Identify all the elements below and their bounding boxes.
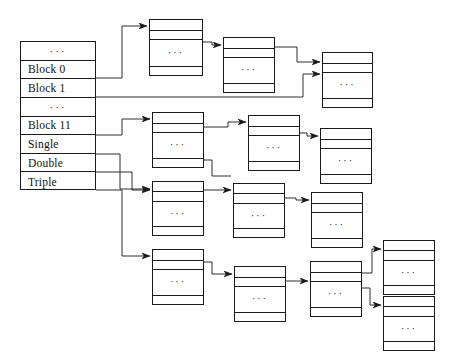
- block-pointer-slot-1: [384, 306, 434, 307]
- block-pointer-slot-2: [249, 135, 299, 136]
- block-ellipsis: ···: [312, 219, 362, 230]
- block-pointer-slot-1: [312, 203, 362, 204]
- block-ellipsis: ···: [153, 276, 203, 287]
- block-ellipsis: ···: [150, 47, 202, 58]
- block-ellipsis: ···: [234, 210, 284, 221]
- block-ellipsis: ···: [311, 288, 361, 299]
- inode-row-ellipsis-3: ···: [21, 98, 95, 117]
- block-double-mid-2: ···: [248, 115, 300, 171]
- block-pointer-slot-last: [153, 158, 203, 159]
- block-pointer-slot-1: [153, 191, 203, 192]
- block-ellipsis: ···: [235, 293, 285, 304]
- block-pointer-slot-2: [384, 260, 434, 261]
- block-triple-l1-3: ···: [311, 192, 363, 248]
- block-pointer-slot-last: [153, 295, 203, 296]
- block-pointer-slot-1: [249, 126, 299, 127]
- inode-block-pointer-table: ···Block 0Block 1···Block 11SingleDouble…: [20, 41, 96, 190]
- block-pointer-slot-1: [224, 48, 274, 49]
- block-single-top-1: ···: [149, 19, 203, 76]
- block-single-top-2: ···: [223, 37, 275, 93]
- block-pointer-slot-2: [321, 148, 371, 149]
- block-pointer-slot-2: [150, 39, 202, 40]
- block-ellipsis: ···: [224, 64, 274, 75]
- block-pointer-slot-last: [311, 307, 361, 308]
- wire-b12-to-b14: [362, 288, 381, 305]
- wire-single-to-b7: [96, 154, 150, 189]
- wire-b8-to-b9: [285, 198, 309, 200]
- block-single-top-3: ···: [322, 52, 373, 108]
- block-triple-l1-2: ···: [233, 183, 285, 238]
- block-ellipsis: ···: [153, 208, 203, 219]
- block-triple-l2-1: ···: [152, 249, 204, 305]
- block-pointer-slot-last: [235, 312, 285, 313]
- inode-row-double-indirect-6: Double: [21, 154, 95, 173]
- block-triple-l2-3: ···: [310, 261, 362, 317]
- block-double-mid-3: ···: [320, 128, 372, 184]
- inode-row-direct-4: Block 11: [21, 117, 95, 136]
- wire-block11-to-b4: [96, 119, 150, 135]
- block-pointer-slot-last: [321, 174, 371, 175]
- wire-b2-to-b3: [275, 47, 320, 62]
- block-pointer-slot-1: [153, 123, 203, 124]
- block-triple-l2-2: ···: [234, 266, 286, 322]
- block-ellipsis: ···: [323, 79, 372, 90]
- block-pointer-slot-2: [323, 72, 372, 73]
- block-pointer-slot-2: [153, 132, 203, 133]
- block-ellipsis: ···: [384, 323, 434, 334]
- diagram-canvas: ···Block 0Block 1···Block 11SingleDouble…: [0, 0, 454, 355]
- inode-row-ellipsis-0: ···: [21, 42, 95, 61]
- block-pointer-slot-2: [153, 269, 203, 270]
- block-triple-leaf-2: ···: [383, 296, 435, 351]
- block-pointer-slot-2: [312, 212, 362, 213]
- inode-row-direct-2: Block 1: [21, 79, 95, 98]
- block-pointer-slot-last: [224, 83, 274, 84]
- block-pointer-slot-last: [153, 226, 203, 227]
- block-pointer-slot-1: [235, 277, 285, 278]
- wire-b5-to-b6: [300, 133, 318, 136]
- block-pointer-slot-1: [153, 260, 203, 261]
- block-pointer-slot-2: [235, 286, 285, 287]
- inode-row-triple-indirect-7: Triple: [21, 172, 95, 191]
- block-pointer-slot-1: [321, 139, 371, 140]
- block-pointer-slot-last: [384, 285, 434, 286]
- block-pointer-slot-last: [150, 66, 202, 67]
- block-pointer-slot-2: [384, 316, 434, 317]
- block-pointer-slot-2: [224, 57, 274, 58]
- block-pointer-slot-1: [323, 63, 372, 64]
- wire-b12-to-b13: [362, 249, 381, 273]
- block-ellipsis: ···: [249, 142, 299, 153]
- wire-block1-to-b3: [96, 74, 320, 97]
- wire-block0-to-b1: [96, 26, 147, 78]
- block-double-mid-1: ···: [152, 112, 204, 168]
- inode-row-single-indirect-5: Single: [21, 135, 95, 154]
- block-pointer-slot-2: [311, 281, 361, 282]
- block-pointer-slot-last: [384, 341, 434, 342]
- block-pointer-slot-2: [153, 201, 203, 202]
- block-ellipsis: ···: [153, 139, 203, 150]
- block-pointer-slot-last: [249, 161, 299, 162]
- wire-double-to-b10: [96, 172, 150, 190]
- block-pointer-slot-1: [311, 272, 361, 273]
- block-pointer-slot-last: [234, 228, 284, 229]
- block-ellipsis: ···: [384, 267, 434, 278]
- block-triple-l1-1: ···: [152, 181, 204, 236]
- block-pointer-slot-last: [323, 98, 372, 99]
- block-pointer-slot-1: [384, 250, 434, 251]
- inode-row-direct-1: Block 0: [21, 61, 95, 80]
- block-pointer-slot-1: [150, 30, 202, 31]
- block-ellipsis: ···: [321, 155, 371, 166]
- wire-triple-to-b10: [96, 190, 150, 256]
- block-pointer-slot-last: [312, 238, 362, 239]
- block-pointer-slot-2: [234, 203, 284, 204]
- block-triple-leaf-1: ···: [383, 240, 435, 295]
- block-pointer-slot-1: [234, 193, 284, 194]
